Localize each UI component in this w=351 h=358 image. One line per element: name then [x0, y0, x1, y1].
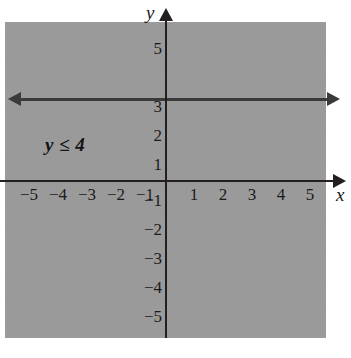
x-tick-label: 4	[270, 186, 292, 203]
y-tick-label: 5	[140, 40, 162, 57]
y-tick-label: 2	[140, 127, 162, 144]
x-axis	[0, 180, 336, 182]
x-tick-label: 1	[183, 186, 205, 203]
x-tick-label: −5	[18, 186, 40, 203]
x-tick-label: −2	[105, 186, 127, 203]
x-tick-label: 3	[241, 186, 263, 203]
graph-figure: y x y ≤ 4 −5−4−3−2−1123455321−1−2−3−4−5	[0, 0, 351, 358]
y-axis-arrowhead	[159, 8, 173, 21]
y-tick-label: −3	[140, 250, 162, 267]
x-tick-label: 2	[212, 186, 234, 203]
x-tick-label: −3	[76, 186, 98, 203]
boundary-right-arrowhead	[327, 92, 340, 106]
boundary-line-y-equals-4	[19, 98, 329, 101]
y-tick-label: 1	[140, 156, 162, 173]
y-tick-label: −1	[140, 192, 162, 209]
inequality-label: y ≤ 4	[45, 134, 85, 156]
y-axis	[165, 20, 167, 338]
y-tick-label: −4	[140, 279, 162, 296]
x-tick-label: 5	[299, 186, 321, 203]
y-tick-label: −5	[140, 308, 162, 325]
y-tick-label: −2	[140, 221, 162, 238]
x-tick-label: −4	[47, 186, 69, 203]
y-tick-label: 3	[140, 98, 162, 115]
boundary-left-arrowhead	[8, 92, 21, 106]
y-axis-label: y	[146, 2, 154, 24]
x-axis-label: x	[336, 184, 344, 206]
